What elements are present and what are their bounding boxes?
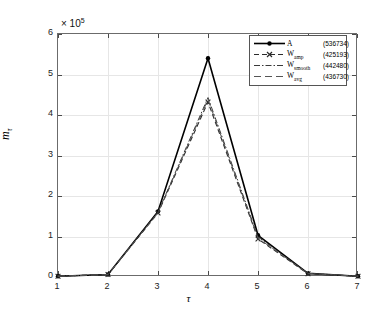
series-line — [58, 100, 358, 277]
series-line — [58, 58, 358, 276]
x-axis-title: τ — [0, 292, 377, 304]
y-tick-label: 0 — [31, 270, 53, 280]
legend-line-sample — [253, 71, 286, 82]
legend-label-sub: avg — [294, 76, 302, 82]
x-tick-label: 5 — [242, 281, 272, 291]
y-axis-title-sub: τ — [5, 128, 14, 131]
y-axis-exponent-text: × 10 — [61, 18, 81, 29]
x-tick-label: 1 — [42, 281, 72, 291]
legend-item: Wamp(425193) — [253, 49, 344, 60]
legend-label: Wsmooth — [286, 60, 323, 71]
legend-item: A(536734) — [253, 38, 344, 49]
legend-value: (425193) — [323, 51, 349, 58]
x-tick-label: 3 — [142, 281, 172, 291]
y-axis-exponent-power: 5 — [81, 17, 85, 24]
legend-item: Wavg(436730) — [253, 71, 344, 82]
series-line — [58, 102, 358, 276]
legend-label: Wavg — [286, 71, 323, 82]
legend-item: Wsmooth(442480) — [253, 60, 344, 71]
legend-value: (536734) — [323, 40, 349, 47]
y-tick-label: 5 — [31, 68, 53, 78]
y-axis-title: mτ — [0, 128, 14, 140]
y-tick-label: 2 — [31, 189, 53, 199]
legend-line-sample — [253, 60, 286, 71]
y-tick-label: 1 — [31, 230, 53, 240]
legend-value: (442480) — [323, 62, 349, 69]
legend-label-base: A — [287, 39, 292, 48]
x-tick-label: 2 — [92, 281, 122, 291]
legend-label-sub: smooth — [294, 65, 310, 71]
x-tick-label: 7 — [342, 281, 372, 291]
legend: A(536734)Wamp(425193)Wsmooth(442480)Wavg… — [249, 35, 347, 86]
y-tick-label: 3 — [31, 149, 53, 159]
legend-label-sub: amp — [294, 54, 303, 60]
y-tick-label: 4 — [31, 108, 53, 118]
series-marker — [206, 56, 210, 60]
legend-line-sample — [253, 49, 286, 60]
legend-label: A — [286, 39, 323, 48]
chart-figure: × 105 mτ τ 12345670123456 A(536734)Wamp(… — [0, 0, 377, 313]
y-tick-label: 6 — [31, 27, 53, 37]
x-tick-label: 6 — [292, 281, 322, 291]
legend-label: Wamp — [286, 49, 323, 60]
legend-line-sample — [253, 38, 286, 49]
x-tick-label: 4 — [192, 281, 222, 291]
legend-value: (436730) — [323, 73, 349, 80]
y-axis-title-base: m — [0, 131, 12, 140]
y-axis-exponent: × 105 — [61, 17, 85, 29]
series-line — [58, 98, 358, 277]
